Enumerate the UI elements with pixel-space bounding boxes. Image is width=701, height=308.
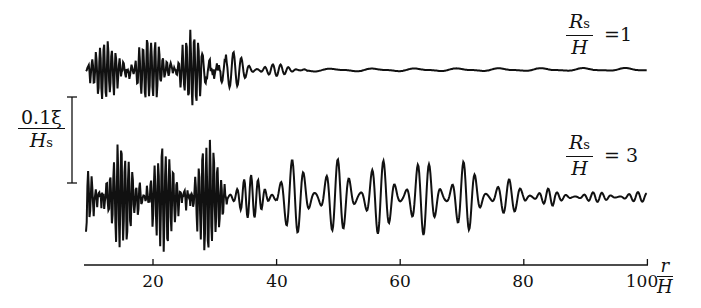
scale-bar [67,97,77,183]
x-tick-label-20: 20 [142,271,164,291]
scale-num: 0.1ξ [21,106,62,128]
trace-rs-h-1 [86,30,647,105]
x-axis-label: r H [657,256,673,297]
trace-rs-h-3 [86,140,647,252]
chart-canvas [0,0,701,308]
x-tick-label-100: 100 [626,271,658,291]
x-tick-label-60: 60 [389,271,411,291]
x-tick-label-40: 40 [266,271,288,291]
scale-bar-label: 0.1ξ Hs [18,106,65,154]
x-axis-ticks [153,259,647,265]
legend-top-eq: =1 [604,23,632,45]
scale-den: H [30,129,47,151]
legend-top-fraction: Rs H [566,10,593,58]
scale-den-sub: s [46,135,53,150]
legend-bottom-eq: = 3 [604,144,638,166]
legend-bottom-fraction: Rs H [566,131,593,179]
x-tick-label-80: 80 [512,271,534,291]
